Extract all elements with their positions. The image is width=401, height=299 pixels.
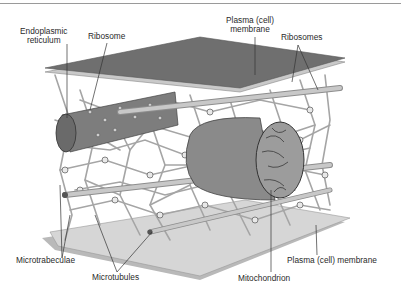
label-ribosome: Ribosome	[88, 32, 125, 41]
bottom-plasma-membrane	[42, 200, 350, 280]
label-plasma-membrane-bottom: Plasma (cell) membrane	[287, 256, 377, 265]
label-mitochondrion: Mitochondrion	[238, 274, 290, 283]
label-ribosomes: Ribosomes	[281, 33, 323, 42]
mitochondrion	[186, 118, 304, 200]
label-endoplasmic-reticulum: Endoplasmic reticulum	[20, 27, 68, 45]
label-microtrabeculae: Microtrabeculae	[16, 256, 75, 265]
label-line: reticulum	[20, 36, 68, 45]
endoplasmic-reticulum	[56, 92, 178, 152]
top-plasma-membrane	[45, 37, 345, 92]
label-line: membrane	[226, 25, 274, 34]
label-plasma-membrane-top: Plasma (cell) membrane	[226, 16, 274, 34]
label-microtubules: Microtubules	[92, 273, 139, 282]
